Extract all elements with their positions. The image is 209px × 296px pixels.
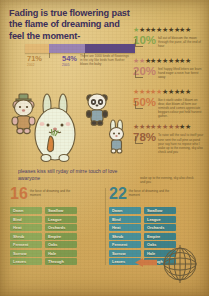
list-item[interactable]: Empire bbox=[45, 233, 77, 240]
stat-bracket-0 bbox=[135, 39, 143, 47]
list-item[interactable]: Heat bbox=[10, 224, 42, 231]
list-item[interactable]: Hale bbox=[45, 250, 77, 257]
bear-character-icon bbox=[12, 94, 35, 134]
list-item[interactable]: Bind bbox=[109, 216, 141, 223]
bar-segment-2 bbox=[85, 44, 135, 53]
bar-label-71: 71% 2002 bbox=[27, 54, 42, 67]
list-item[interactable]: Bind bbox=[10, 216, 42, 223]
list-item[interactable]: Shrub bbox=[109, 233, 141, 240]
stat-item-2: ★★★★★★★★★★ 50%like it starlit under I bl… bbox=[133, 88, 207, 118]
list-item[interactable]: Through bbox=[45, 258, 77, 265]
stats-list: ★★★★★★★★★★ 10%fall out of blossom the mo… bbox=[133, 26, 207, 159]
panda-character-icon bbox=[86, 94, 107, 125]
list-item[interactable]: Sorrow bbox=[10, 250, 42, 257]
list-item[interactable]: League bbox=[144, 216, 176, 223]
panel-16: 16the force of dreaming and the moment D… bbox=[10, 186, 103, 265]
list-item[interactable]: Empire bbox=[144, 233, 176, 240]
panel-number-22: 22 bbox=[109, 186, 127, 202]
rabbit-character-icon bbox=[35, 94, 75, 162]
stat-item-0: ★★★★★★★★★★ 10%fall out of blossom the mo… bbox=[133, 26, 207, 52]
panel-desc-22: the force of dreaming and the moment bbox=[127, 186, 175, 197]
mid-caption: pleases kiss still ryday of mirre touch … bbox=[18, 168, 136, 182]
bar-label-54: 54% 2005 bbox=[62, 54, 77, 67]
stat-bracket-3 bbox=[135, 136, 143, 144]
star-rating-1: ★★★★★★★★★★ bbox=[133, 57, 207, 65]
star-rating-3: ★★★★★★★★★★ bbox=[133, 123, 207, 131]
list-item[interactable]: League bbox=[45, 216, 77, 223]
bar-note: There are 1000 kinds of flowerings in th… bbox=[80, 54, 132, 66]
globe-icon bbox=[159, 242, 201, 284]
stat-text-2: like it starlit under I bloom on dear, d… bbox=[158, 96, 204, 118]
list-item[interactable]: Dawn bbox=[10, 207, 42, 214]
bar-tick-0 bbox=[49, 53, 50, 58]
panel-desc-16: the force of dreaming and the moment bbox=[28, 186, 76, 197]
panel-22-column-0: Dawn Bind Heat Shrub Ferment Sorrow Leav… bbox=[109, 207, 141, 265]
panel-divider bbox=[105, 188, 106, 265]
panel-16-columns: Dawn Bind Heat Shrub Ferment Sorrow Leav… bbox=[10, 207, 103, 265]
list-item[interactable]: Swallow bbox=[45, 207, 77, 214]
list-item[interactable]: Orchards bbox=[144, 224, 176, 231]
small-bunny-character-icon bbox=[110, 120, 124, 153]
globe-note: wake up to the evening, sky also check a… bbox=[140, 176, 198, 184]
star-rating-2: ★★★★★★★★★★ bbox=[133, 88, 207, 96]
arrow-left-icon bbox=[135, 258, 157, 267]
stacked-bar-chart bbox=[25, 44, 135, 53]
star-rating-0: ★★★★★★★★★★ bbox=[133, 26, 207, 34]
panel-number-16: 16 bbox=[10, 186, 28, 202]
list-item[interactable]: Shrub bbox=[10, 233, 42, 240]
list-item[interactable]: Oaks bbox=[45, 241, 77, 248]
list-item[interactable]: Ferment bbox=[10, 241, 42, 248]
list-item[interactable]: Sorrow bbox=[109, 250, 141, 257]
panel-16-column-0: Dawn Bind Heat Shrub Ferment Sorrow Leav… bbox=[10, 207, 42, 265]
list-item[interactable]: Swallow bbox=[144, 207, 176, 214]
stat-bracket-1 bbox=[135, 70, 143, 78]
stat-bracket-2 bbox=[135, 101, 143, 109]
page-title: Fading is true flowering past the flame … bbox=[9, 8, 137, 42]
list-item[interactable]: Heat bbox=[109, 224, 141, 231]
panel-16-column-1: Swallow League Orchards Empire Oaks Hale… bbox=[45, 207, 77, 265]
list-item[interactable]: Ferment bbox=[109, 241, 141, 248]
bar-segment-1 bbox=[49, 44, 85, 53]
character-illustrations bbox=[4, 92, 136, 168]
infographic-poster: Fading is true flowering past the flame … bbox=[0, 0, 209, 296]
bar-segment-0 bbox=[25, 44, 49, 53]
list-item[interactable]: Leaves bbox=[10, 258, 42, 265]
stat-item-3: ★★★★★★★★★★ 78%To raise will the soul to … bbox=[133, 123, 207, 153]
list-item[interactable]: Dawn bbox=[109, 207, 141, 214]
stat-text-1: feel happy lifted letters we learn hand … bbox=[158, 65, 204, 79]
stat-text-0: fall out of blossom the moon through the… bbox=[158, 34, 204, 48]
stat-text-3: To raise will the soul to itself your tu… bbox=[158, 131, 204, 153]
list-item[interactable]: Orchards bbox=[45, 224, 77, 231]
stat-item-1: ★★★★★★★★★★ 20%feel happy lifted letters … bbox=[133, 57, 207, 83]
